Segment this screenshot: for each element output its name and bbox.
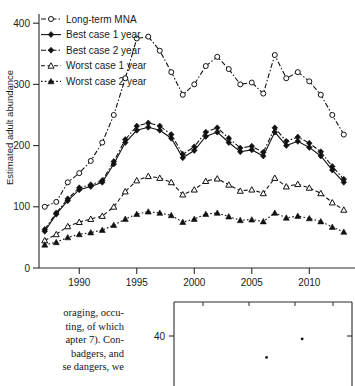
data-point (295, 213, 301, 218)
inset-data-points (265, 338, 303, 359)
data-point (238, 82, 243, 87)
data-point (180, 92, 185, 97)
data-point (249, 143, 255, 149)
body-text-line: se dangers, we (0, 360, 124, 374)
data-point (134, 177, 140, 182)
series-worst-case-2-year (42, 209, 347, 247)
inset-scatter-chart: 40 (128, 296, 355, 386)
series-worst-case-1-year (42, 173, 347, 243)
x-tick-label: 1990 (68, 277, 91, 288)
data-point (295, 134, 301, 140)
data-point (226, 214, 232, 219)
inset-point (265, 356, 268, 359)
body-text-column: oraging, occu-ting, of whichapter 7). Co… (0, 306, 124, 374)
data-point (226, 67, 231, 72)
y-tick-label: 400 (13, 18, 30, 29)
data-point (214, 125, 220, 131)
y-axis-ticks: 0100200300400 (13, 18, 39, 274)
data-point (53, 231, 59, 236)
y-axis-label: Estimated adult abundance (4, 70, 15, 185)
page-bottom-block: oraging, occu-ting, of whichapter 7). Co… (0, 296, 355, 386)
body-text-line: ting, of which (0, 320, 124, 334)
data-point (203, 64, 208, 69)
data-point (145, 173, 151, 178)
data-point (203, 178, 209, 183)
data-point (249, 217, 255, 222)
data-point (65, 180, 70, 185)
data-point (272, 175, 278, 180)
data-point (318, 92, 323, 97)
legend-label: Best case 2 year (66, 45, 141, 56)
y-tick-label: 100 (13, 201, 30, 212)
data-point (307, 79, 312, 84)
data-point (53, 239, 59, 244)
legend-marker (48, 32, 54, 38)
data-point (237, 217, 243, 222)
legend-item-2: Best case 2 year (41, 45, 141, 56)
data-point (146, 34, 151, 39)
data-point (192, 82, 197, 87)
x-tick-label: 2010 (298, 277, 321, 288)
data-point (284, 76, 289, 81)
data-point (272, 53, 277, 58)
legend-item-1: Best case 1 year (41, 29, 141, 40)
data-point (341, 207, 347, 212)
data-point (318, 190, 324, 195)
data-point (272, 210, 278, 215)
body-text-line: apter 7). Con- (0, 333, 124, 347)
legend-item-3: Worst case 1 year (41, 60, 147, 71)
data-point (261, 91, 266, 96)
main-figure-panel: 0100200300400 19901995200020052010 Estim… (0, 0, 355, 300)
x-tick-label: 2000 (183, 277, 206, 288)
body-text-line: badgers, and (0, 347, 124, 361)
x-tick-label: 2005 (241, 277, 264, 288)
y-tick-label: 300 (13, 79, 30, 90)
legend-marker (49, 17, 54, 22)
data-point (214, 176, 220, 181)
data-point (77, 171, 82, 176)
inset-ticks: 40 (154, 302, 352, 342)
data-point (191, 216, 197, 221)
data-point (226, 182, 232, 187)
data-point (341, 229, 347, 234)
data-point (306, 140, 312, 146)
legend-marker (48, 47, 54, 53)
inset-point (301, 338, 304, 341)
y-tick-label: 200 (13, 140, 30, 151)
data-point (215, 54, 220, 59)
abundance-line-chart: 0100200300400 19901995200020052010 Estim… (0, 0, 355, 300)
data-point (341, 132, 346, 137)
chart-legend: Long-term MNABest case 1 yearBest case 2… (41, 14, 147, 87)
data-point (329, 224, 335, 229)
data-point (100, 140, 105, 145)
legend-label: Worst case 1 year (66, 60, 147, 71)
data-point (249, 187, 255, 192)
data-point (191, 187, 197, 192)
data-point (65, 234, 71, 239)
inset-tick-label: 40 (154, 331, 166, 342)
body-text-line: oraging, occu- (0, 306, 124, 320)
data-point (42, 204, 47, 209)
data-point (157, 48, 162, 53)
data-point (111, 112, 116, 117)
legend-label: Worst case 2 year (66, 76, 147, 87)
x-tick-label: 1995 (126, 277, 149, 288)
x-axis-ticks: 19901995200020052010 (68, 268, 321, 288)
data-point (180, 219, 186, 224)
data-point (295, 70, 300, 75)
legend-item-4: Worst case 2 year (41, 76, 147, 87)
data-point (145, 120, 151, 126)
data-point (283, 215, 289, 220)
data-point (295, 181, 301, 186)
legend-item-0: Long-term MNA (41, 14, 137, 25)
data-point (169, 70, 174, 75)
data-point (329, 200, 335, 205)
data-point (122, 216, 128, 221)
data-point (237, 188, 243, 193)
data-point (157, 175, 163, 180)
data-point (330, 112, 335, 117)
data-point (54, 199, 59, 204)
y-tick-label: 0 (24, 263, 30, 274)
data-point (88, 158, 93, 163)
data-point (111, 222, 117, 227)
